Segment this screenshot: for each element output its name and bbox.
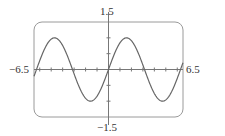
x-max-label: 6.5 <box>186 64 200 75</box>
y-max-label: 1.5 <box>100 6 114 17</box>
x-min-label: −6.5 <box>9 64 29 75</box>
y-min-label: −1.5 <box>97 122 117 133</box>
